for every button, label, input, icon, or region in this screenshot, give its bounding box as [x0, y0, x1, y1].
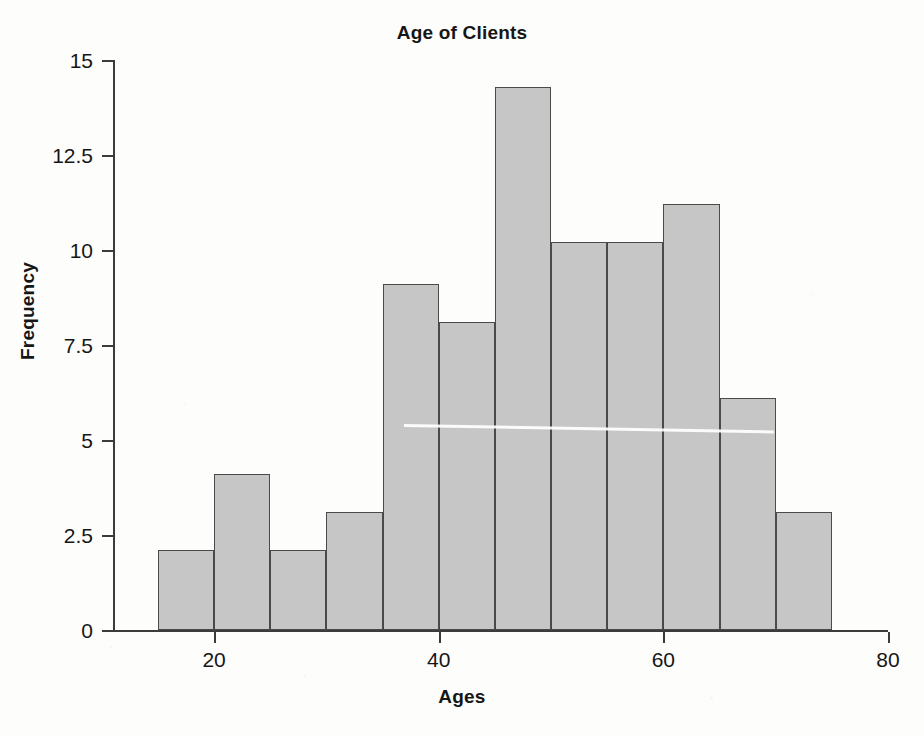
- x-axis-line: [113, 630, 888, 632]
- x-tick-label: 60: [633, 648, 693, 672]
- histogram-bar: [607, 242, 663, 630]
- y-tick-label: 2.5: [29, 524, 93, 548]
- y-tick-mark: [102, 155, 113, 157]
- histogram-bar: [326, 512, 382, 630]
- histogram-bar: [776, 512, 832, 630]
- y-axis-label: Frequency: [17, 231, 39, 391]
- y-tick-mark: [102, 250, 113, 252]
- x-tick-label: 20: [184, 648, 244, 672]
- y-tick-mark: [102, 630, 113, 632]
- histogram-bar: [383, 284, 439, 630]
- x-tick-mark: [888, 632, 890, 643]
- x-axis-label: Ages: [0, 686, 924, 708]
- y-tick-mark: [102, 440, 113, 442]
- y-tick-label: 15: [29, 49, 93, 73]
- y-tick-mark: [102, 60, 113, 62]
- histogram-bar: [720, 398, 776, 630]
- histogram-bar: [270, 550, 326, 630]
- y-axis-line: [113, 60, 115, 630]
- y-tick-mark: [102, 345, 113, 347]
- x-tick-mark: [439, 632, 441, 643]
- y-tick-label: 12.5: [29, 144, 93, 168]
- histogram-bar: [439, 322, 495, 630]
- y-tick-label: 0: [29, 619, 93, 643]
- x-tick-label: 40: [409, 648, 469, 672]
- histogram-bar: [663, 204, 719, 630]
- x-tick-label: 80: [858, 648, 918, 672]
- histogram-figure: Age of Clients 2040608002.557.51012.515 …: [0, 0, 924, 735]
- x-tick-mark: [663, 632, 665, 643]
- histogram-bar: [158, 550, 214, 630]
- histogram-bar: [495, 87, 551, 630]
- plot-area: 2040608002.557.51012.515: [0, 0, 924, 735]
- y-tick-mark: [102, 535, 113, 537]
- x-tick-mark: [214, 632, 216, 643]
- histogram-bar: [214, 474, 270, 630]
- histogram-bar: [551, 242, 607, 630]
- y-tick-label: 5: [29, 429, 93, 453]
